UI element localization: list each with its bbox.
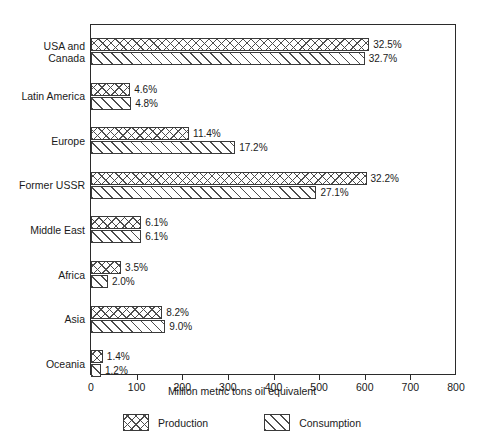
bar-value-label: 3.5% <box>125 261 148 274</box>
x-tick <box>365 375 366 380</box>
bar-production <box>91 83 130 96</box>
bar-consumption <box>91 97 131 110</box>
category-label: Latin America <box>21 90 85 103</box>
category-label: USA and Canada <box>44 39 85 64</box>
x-tick <box>410 375 411 380</box>
bar-consumption <box>91 275 108 288</box>
bar-consumption <box>91 186 316 199</box>
x-tick <box>274 375 275 380</box>
category-label: Middle East <box>30 224 85 237</box>
bar-consumption <box>91 364 101 377</box>
crosshatch-swatch-icon <box>123 414 149 431</box>
bar-consumption <box>91 230 141 243</box>
bar-value-label: 1.4% <box>107 350 130 363</box>
bar-value-label: 17.2% <box>239 141 267 154</box>
x-tick <box>319 375 320 380</box>
category-label: Former USSR <box>19 179 85 192</box>
x-axis-title: Million metric tons oil equivalent <box>0 385 484 397</box>
category-label: Africa <box>58 268 85 281</box>
chart-legend: Production Consumption <box>0 414 484 431</box>
bar-production <box>91 306 162 319</box>
bar-value-label: 32.5% <box>373 38 401 51</box>
bar-consumption <box>91 320 165 333</box>
category-label: Asia <box>65 313 85 326</box>
bar-value-label: 11.4% <box>193 127 221 140</box>
bar-value-label: 4.8% <box>135 97 158 110</box>
bar-value-label: 6.1% <box>145 230 168 243</box>
legend-label-production: Production <box>158 417 208 429</box>
bar-production <box>91 127 189 140</box>
bar-value-label: 6.1% <box>145 216 168 229</box>
bar-consumption <box>91 52 365 65</box>
bar-production <box>91 350 103 363</box>
bar-value-label: 4.6% <box>134 83 157 96</box>
bar-value-label: 27.1% <box>320 186 348 199</box>
bar-value-label: 32.7% <box>369 52 397 65</box>
bar-consumption <box>91 141 235 154</box>
diagonal-hatch-swatch-icon <box>264 414 290 431</box>
x-tick <box>182 375 183 380</box>
category-label: Europe <box>51 134 85 147</box>
bar-production <box>91 172 367 185</box>
legend-item-production[interactable]: Production <box>123 414 208 431</box>
bar-value-label: 8.2% <box>166 306 189 319</box>
bar-value-label: 9.0% <box>169 320 192 333</box>
bar-value-label: 2.0% <box>112 275 135 288</box>
bar-production <box>91 38 369 51</box>
bar-production <box>91 261 121 274</box>
legend-item-consumption[interactable]: Consumption <box>264 414 361 431</box>
category-label: Oceania <box>46 357 85 370</box>
x-tick <box>228 375 229 380</box>
bar-production <box>91 216 141 229</box>
x-tick <box>137 375 138 380</box>
bar-value-label: 1.2% <box>105 364 128 377</box>
bar-chart: USA and CanadaLatin AmericaEuropeFormer … <box>0 0 484 443</box>
bar-value-label: 32.2% <box>371 172 399 185</box>
legend-label-consumption: Consumption <box>299 417 361 429</box>
